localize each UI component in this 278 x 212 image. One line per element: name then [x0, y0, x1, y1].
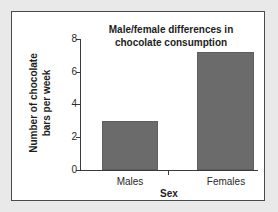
chart-title-line-1: Male/female differences in	[78, 24, 264, 37]
figure-frame: Male/female differences in chocolate con…	[11, 11, 265, 201]
plot-area: 0 2 4 6 8 Males Females	[80, 39, 255, 171]
y-tick-label-2: 2	[71, 130, 77, 143]
x-axis-title: Sex	[80, 188, 258, 199]
y-axis-title-line-2: bars per week	[40, 53, 53, 152]
y-tick-label-8: 8	[71, 32, 77, 45]
x-axis-line	[80, 170, 258, 171]
x-category-label-males: Males	[96, 176, 164, 188]
y-axis-title: Number of chocolate bars per week	[24, 30, 56, 176]
x-axis-mid-tick	[168, 171, 169, 175]
bar-males	[102, 121, 158, 170]
bar-females	[197, 52, 254, 170]
x-category-label-females: Females	[190, 176, 262, 188]
y-axis-line	[80, 39, 81, 171]
y-tick-label-4: 4	[71, 97, 77, 110]
y-axis-title-line-1: Number of chocolate	[28, 53, 41, 152]
y-tick-label-0: 0	[71, 163, 77, 176]
y-axis-title-text: Number of chocolate bars per week	[28, 53, 53, 152]
y-tick-label-6: 6	[71, 65, 77, 78]
